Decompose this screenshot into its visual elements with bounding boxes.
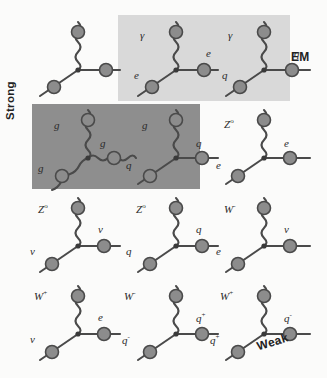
diagram-em-electron bbox=[130, 12, 226, 100]
label-quark-in-2: q bbox=[126, 160, 132, 171]
force-label-strong: Strong bbox=[4, 81, 16, 120]
label-quark-in-3: q bbox=[126, 246, 132, 257]
feynman-diagram-figure: γ e e γ q q bbox=[0, 0, 327, 378]
label-gluon-top-1: g bbox=[54, 120, 60, 131]
label-zboson-3: Zo bbox=[136, 203, 146, 215]
diagram-weak-w-quark-minus bbox=[130, 280, 226, 368]
label-wboson-3: W- bbox=[124, 290, 136, 302]
label-neutrino-out-1: ν bbox=[98, 224, 103, 235]
label-electron-in-1: e bbox=[134, 70, 139, 81]
label-wboson-1: W- bbox=[224, 203, 236, 215]
label-gluon-out-1: g bbox=[100, 138, 106, 149]
label-photon-1: γ bbox=[140, 30, 144, 41]
diagram-generic-vertex bbox=[32, 12, 128, 100]
label-zboson-2: Zo bbox=[38, 203, 48, 215]
label-quark-in-5: q+ bbox=[210, 334, 219, 346]
label-gluon-in-1: g bbox=[38, 163, 44, 174]
label-wboson-2: W+ bbox=[34, 290, 47, 302]
label-electron-in-3: e bbox=[216, 246, 221, 257]
label-quark-in-1: q bbox=[222, 70, 228, 81]
label-electron-out-3: e bbox=[98, 312, 103, 323]
diagram-strong-gluon-self bbox=[42, 102, 138, 190]
label-wboson-4: W+ bbox=[220, 290, 233, 302]
label-neutrino-in-1: ν bbox=[30, 246, 35, 257]
label-electron-out-1: e bbox=[206, 48, 211, 59]
label-electron-out-2: e bbox=[284, 138, 289, 149]
label-zboson-1: Zo bbox=[224, 118, 234, 130]
label-quark-out-2: q bbox=[196, 138, 202, 149]
force-label-em: EM bbox=[291, 50, 310, 64]
label-neutrino-in-2: ν bbox=[30, 334, 35, 345]
label-quark-out-3: q bbox=[196, 224, 202, 235]
label-quark-in-4: q- bbox=[122, 334, 130, 346]
diagram-weak-z-electron bbox=[218, 102, 314, 190]
label-quark-out-4: q+ bbox=[196, 312, 205, 324]
diagram-strong-quark bbox=[130, 102, 226, 190]
label-neutrino-out-2: ν bbox=[284, 224, 289, 235]
label-quark-out-5: q- bbox=[284, 312, 292, 324]
label-electron-in-2: e bbox=[216, 160, 221, 171]
label-photon-2: γ bbox=[228, 30, 232, 41]
label-gluon-top-2: g bbox=[142, 120, 148, 131]
